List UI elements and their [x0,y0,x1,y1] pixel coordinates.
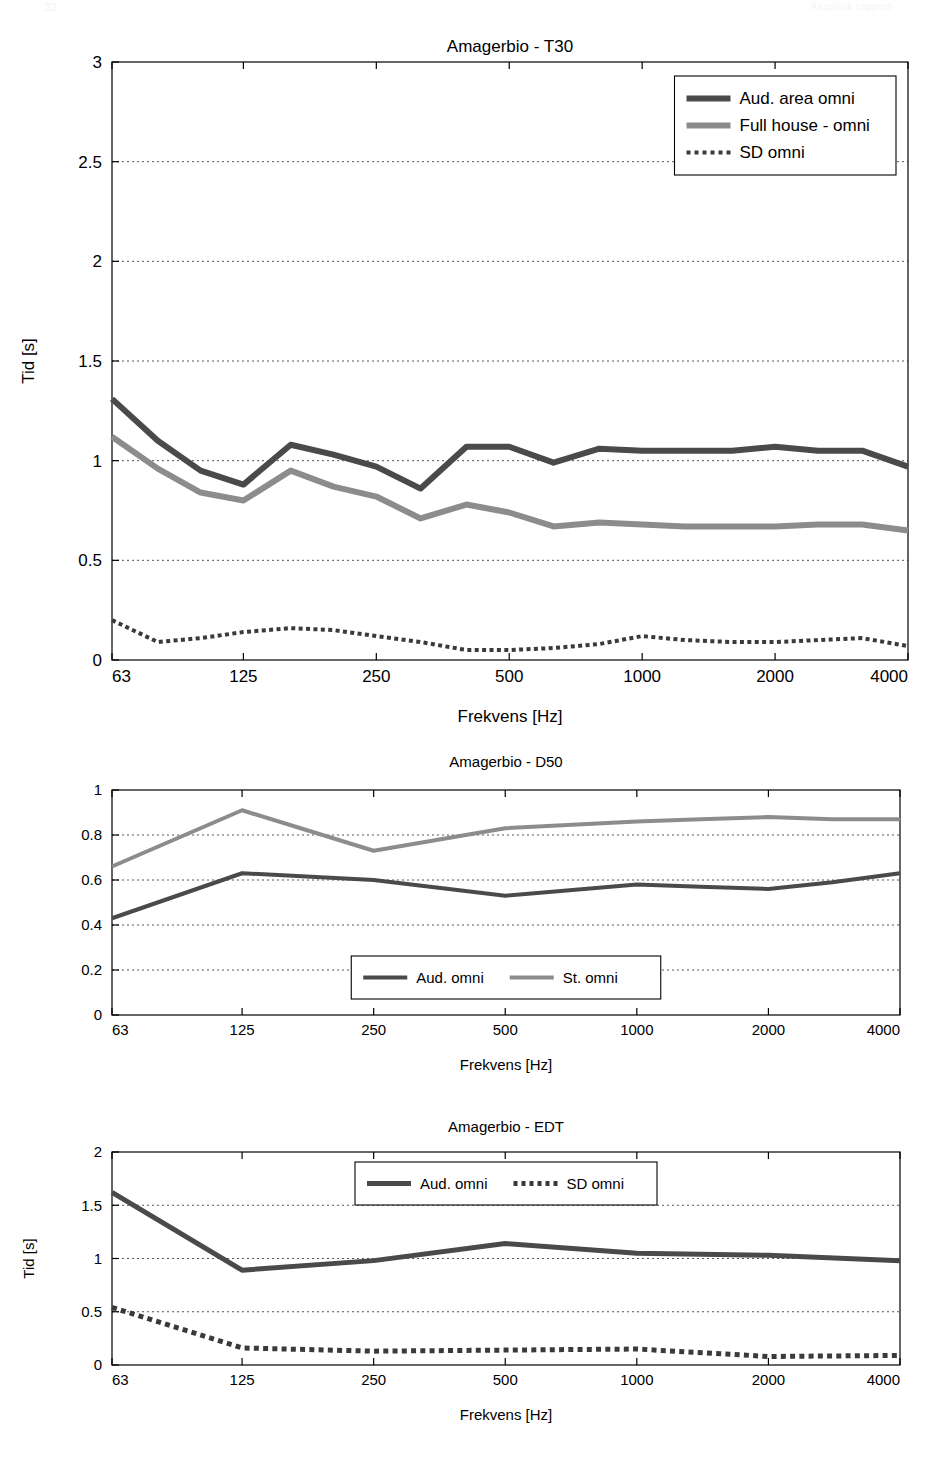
legend-label: Full house - omni [740,116,870,135]
y-tick-label: 1.5 [81,1197,102,1214]
plot-canvas: Amagerbio - T3000.511.522.53631252505001… [0,30,938,740]
chart-legend: Aud. omniSt. omni [351,956,661,999]
x-tick-label: 125 [230,1021,255,1038]
header-running-title: Akustisk rapport [811,1,892,12]
x-tick-label: 1000 [623,667,661,686]
y-tick-label: 0.2 [81,961,102,978]
x-tick-label: 4000 [870,667,908,686]
y-tick-label: 0.8 [81,826,102,843]
x-tick-label: 2000 [756,667,794,686]
x-tick-label: 2000 [752,1371,785,1388]
x-tick-label: 250 [361,1371,386,1388]
chart-edt: Amagerbio - EDT00.511.526312525050010002… [0,1110,938,1440]
x-axis-label: Frekvens [Hz] [458,707,563,726]
chart-d50: Amagerbio - D5000.20.40.60.8163125250500… [0,745,938,1085]
x-tick-label: 1000 [620,1021,653,1038]
chart-legend: Aud. omniSD omni [355,1162,657,1205]
legend-label: St. omni [563,969,618,986]
legend-label: SD omni [740,143,805,162]
chart-title: Amagerbio - D50 [449,753,562,770]
chart-title: Amagerbio - T30 [447,37,573,56]
series-line [112,810,900,866]
y-axis-label: Tid [s] [19,338,38,384]
x-tick-label: 4000 [867,1021,900,1038]
legend-label: Aud. omni [416,969,484,986]
series-line [112,620,908,650]
y-tick-label: 0.5 [81,1303,102,1320]
y-axis-label: Tid [s] [20,1238,37,1278]
y-tick-label: 1 [94,781,102,798]
y-tick-label: 1 [94,1250,102,1267]
plot-canvas: Amagerbio - D5000.20.40.60.8163125250500… [0,745,938,1085]
x-tick-label: 500 [493,1021,518,1038]
y-tick-label: 0 [93,651,102,670]
plot-canvas: Amagerbio - EDT00.511.526312525050010002… [0,1110,938,1440]
y-tick-label: 0.6 [81,871,102,888]
y-tick-label: 2.5 [78,153,102,172]
chart-t30: Amagerbio - T3000.511.522.53631252505001… [0,30,938,740]
x-tick-label: 500 [493,1371,518,1388]
y-tick-label: 0.5 [78,551,102,570]
legend-label: Aud. omni [420,1175,488,1192]
x-tick-label: 1000 [620,1371,653,1388]
chart-title: Amagerbio - EDT [448,1118,564,1135]
y-tick-label: 0.4 [81,916,102,933]
x-tick-label: 63 [112,667,131,686]
series-line [112,1307,900,1356]
legend-label: SD omni [567,1175,625,1192]
series-line [112,873,900,918]
y-tick-label: 1.5 [78,352,102,371]
x-tick-label: 63 [112,1021,129,1038]
x-tick-label: 250 [362,667,390,686]
x-axis-label: Frekvens [Hz] [460,1056,553,1073]
x-tick-label: 4000 [867,1371,900,1388]
y-tick-label: 2 [93,252,102,271]
x-axis-label: Frekvens [Hz] [460,1406,553,1423]
y-tick-label: 0 [94,1006,102,1023]
x-tick-label: 63 [112,1371,129,1388]
page-number: 32 [44,1,57,13]
x-tick-label: 125 [230,1371,255,1388]
y-tick-label: 1 [93,452,102,471]
x-tick-label: 500 [495,667,523,686]
series-line [112,399,908,489]
legend-label: Aud. area omni [740,89,855,108]
document-page: 32 Akustisk rapport Amagerbio - T3000.51… [0,0,938,1471]
x-tick-label: 125 [229,667,257,686]
x-tick-label: 2000 [752,1021,785,1038]
chart-legend: Aud. area omniFull house - omniSD omni [675,76,897,175]
y-tick-label: 0 [94,1356,102,1373]
page-header: 32 Akustisk rapport [0,0,938,18]
y-tick-label: 2 [94,1143,102,1160]
y-tick-label: 3 [93,53,102,72]
x-tick-label: 250 [361,1021,386,1038]
